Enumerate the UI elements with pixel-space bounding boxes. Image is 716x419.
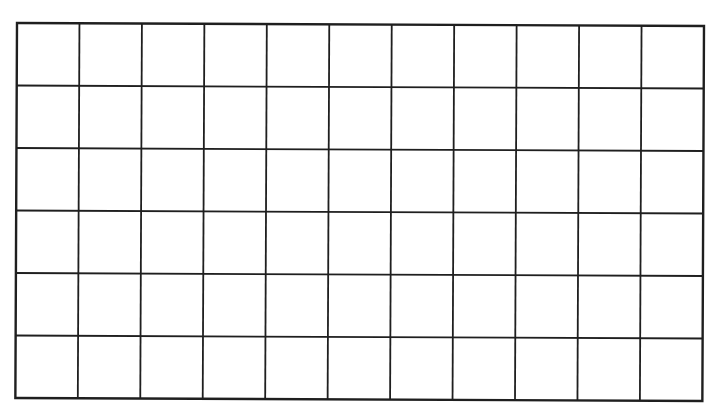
grid-cell	[17, 23, 80, 86]
grid-cell	[265, 337, 328, 400]
grid-cell	[79, 23, 142, 86]
grid-cell	[16, 210, 79, 273]
grid-cell	[79, 148, 142, 211]
grid-cell	[141, 149, 204, 212]
grid-cell	[204, 24, 267, 87]
grid-cell	[141, 86, 204, 149]
grid-cell	[391, 87, 454, 150]
grid-cell	[641, 26, 704, 89]
grid-cell	[391, 150, 454, 213]
grid-cell	[516, 213, 579, 276]
grid-cell	[204, 149, 267, 212]
grid-cell	[391, 25, 454, 88]
grid-cell	[78, 336, 141, 399]
grid-cell	[579, 88, 642, 151]
grid-cell	[328, 337, 391, 400]
grid-cell	[329, 24, 392, 87]
grid-cell	[640, 213, 703, 276]
grid-cell	[141, 274, 204, 337]
grid-cell	[78, 273, 141, 336]
grid-cell	[203, 274, 266, 337]
grid-cell	[454, 25, 517, 88]
grid-lines	[15, 23, 704, 401]
grid-cell	[142, 24, 205, 87]
grid-cell	[328, 149, 391, 212]
grid-cell	[641, 88, 704, 151]
grid-cell	[265, 274, 328, 337]
grid-cell	[454, 87, 517, 150]
grid-cell	[516, 25, 579, 88]
grid-cell	[578, 213, 641, 276]
grid-cell	[577, 338, 640, 401]
grid-cell	[267, 24, 330, 87]
grid-cell	[15, 335, 78, 398]
grid-cell	[640, 276, 703, 339]
grid-cell	[453, 275, 516, 338]
empty-grid	[15, 23, 704, 401]
grid-cell	[390, 337, 453, 400]
grid-cell	[16, 148, 79, 211]
grid-cell	[203, 336, 266, 399]
grid-cell	[141, 211, 204, 274]
grid-cell	[204, 86, 267, 149]
grid-cell	[390, 275, 453, 338]
grid-cell	[391, 212, 454, 275]
grid-cell	[515, 275, 578, 338]
grid-cell	[578, 275, 641, 338]
grid-cell	[453, 212, 516, 275]
grid-cell	[140, 336, 203, 399]
grid-cell	[16, 85, 79, 148]
grid-cell	[578, 150, 641, 213]
grid-cell	[266, 149, 329, 212]
grid-cell	[79, 86, 142, 149]
grid-cell	[329, 87, 392, 150]
grid-cell	[266, 87, 329, 150]
grid-cell	[515, 338, 578, 401]
grid-cell	[266, 212, 329, 275]
grid-cell	[516, 88, 579, 151]
grid-cell	[328, 212, 391, 275]
grid-cell	[328, 274, 391, 337]
grid-cell	[16, 273, 79, 336]
grid-cell	[516, 150, 579, 213]
grid-cell	[203, 211, 266, 274]
grid-cell	[641, 151, 704, 214]
grid-cell	[640, 338, 703, 401]
grid-cell	[453, 150, 516, 213]
grid-cell	[579, 25, 642, 88]
grid-cell	[453, 337, 516, 400]
grid-cell	[78, 211, 141, 274]
